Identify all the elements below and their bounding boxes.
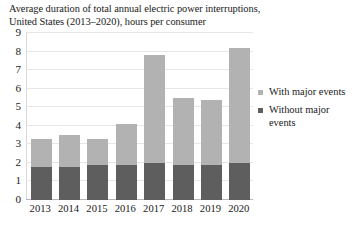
bar-2019[interactable]: [201, 100, 222, 200]
bar-segment-without-major-events-2015: [87, 165, 108, 200]
bars-layer: [26, 33, 253, 200]
bar-segment-with-major-events-2016: [116, 124, 137, 165]
plot-area: [26, 33, 253, 200]
chart-title-line-2: United States (2013–2020), hours per con…: [9, 15, 339, 28]
bar-segment-without-major-events-2017: [144, 163, 165, 200]
chart-title-line-1: Average duration of total annual electri…: [9, 2, 339, 15]
y-tick-label-7: 7: [15, 65, 21, 76]
legend-label: With major events: [269, 86, 350, 98]
x-tick-label-2020: 2020: [225, 203, 253, 215]
bar-segment-with-major-events-2015: [87, 139, 108, 165]
bar-segment-without-major-events-2016: [116, 165, 137, 200]
legend-item-without-major-events[interactable]: Without major events: [258, 104, 350, 129]
bar-2018[interactable]: [173, 98, 194, 200]
y-tick-label-2: 2: [15, 157, 21, 168]
chart-figure: Average duration of total annual electri…: [0, 0, 355, 232]
bar-2015[interactable]: [87, 139, 108, 200]
legend-swatch-icon: [258, 108, 263, 113]
bar-2020[interactable]: [229, 48, 250, 200]
bar-2014[interactable]: [59, 135, 80, 200]
bar-segment-with-major-events-2017: [144, 55, 165, 163]
bar-segment-with-major-events-2019: [201, 100, 222, 165]
x-tick-label-2018: 2018: [168, 203, 196, 215]
y-tick-label-1: 1: [15, 176, 21, 187]
x-tick-label-2013: 2013: [26, 203, 54, 215]
chart-legend: With major eventsWithout major events: [258, 86, 350, 135]
bar-segment-with-major-events-2014: [59, 135, 80, 167]
y-tick-label-8: 8: [15, 46, 21, 57]
bar-segment-with-major-events-2018: [173, 98, 194, 165]
y-tick-label-6: 6: [15, 83, 21, 94]
x-tick-label-2019: 2019: [196, 203, 224, 215]
y-tick-label-3: 3: [15, 139, 21, 150]
bar-2013[interactable]: [31, 139, 52, 200]
bar-2016[interactable]: [116, 124, 137, 200]
chart-title: Average duration of total annual electri…: [9, 2, 339, 28]
x-tick-label-2017: 2017: [140, 203, 168, 215]
legend-swatch-icon: [258, 90, 263, 95]
legend-item-with-major-events[interactable]: With major events: [258, 86, 350, 98]
x-tick-label-2014: 2014: [54, 203, 82, 215]
y-tick-label-5: 5: [15, 102, 21, 113]
y-tick-label-4: 4: [15, 120, 21, 131]
bar-segment-without-major-events-2019: [201, 165, 222, 200]
bar-segment-without-major-events-2013: [31, 167, 52, 200]
x-axis-tick-labels: 20132014201520162017201820192020: [26, 201, 253, 219]
legend-label: Without major events: [269, 104, 350, 129]
y-tick-label-0: 0: [15, 194, 21, 205]
bar-segment-with-major-events-2013: [31, 139, 52, 167]
bar-segment-without-major-events-2018: [173, 165, 194, 200]
x-tick-label-2016: 2016: [111, 203, 139, 215]
bar-segment-without-major-events-2014: [59, 167, 80, 200]
bar-2017[interactable]: [144, 55, 165, 200]
y-tick-label-9: 9: [15, 27, 21, 38]
bar-segment-without-major-events-2020: [229, 163, 250, 200]
bar-segment-with-major-events-2020: [229, 48, 250, 163]
x-tick-label-2015: 2015: [83, 203, 111, 215]
y-axis-tick-labels: 0123456789: [0, 33, 24, 200]
